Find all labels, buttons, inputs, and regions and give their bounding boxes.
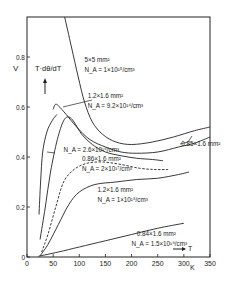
data-curve — [65, 17, 210, 145]
x-tick-label: 350 — [204, 260, 216, 267]
chart: 05010015020025030035000.20.40.60.8 5×5 m… — [0, 0, 229, 286]
up-arrow-icon — [43, 78, 47, 94]
plot-frame — [27, 17, 210, 257]
x-tick-label: 0 — [25, 260, 29, 267]
x-tick-label: 250 — [152, 260, 164, 267]
curve-label: N_A = 9.2×10¹⁴/cm³ — [88, 102, 144, 110]
x-axis-unit: K — [190, 264, 195, 271]
curve-label: N_A = 1×10¹⁸/cm³ — [98, 196, 148, 204]
x-tick-label: 300 — [178, 260, 190, 267]
curve-label: 1.2×1.6 mm² — [98, 186, 134, 193]
plot-border — [27, 17, 210, 257]
annotations: 5×5 mm²N_A = 1×10¹⁵/cm³1.2×1.6 mm²N_A = … — [64, 56, 221, 248]
curve-label: N_A = 1.5×10¹⁹/cm³ — [132, 240, 188, 248]
curve-label: N_A = 2.6×10¹⁶/cm³ — [64, 146, 119, 154]
curve-label: 0.86×1.6 mm² — [82, 155, 121, 162]
x-tick-label: 150 — [100, 260, 112, 267]
y-tick-label: 0 — [21, 254, 25, 261]
curve-label: N_A = 1×10¹⁵/cm³ — [85, 66, 135, 74]
curve-label: 5×5 mm² — [85, 56, 110, 63]
data-curves — [39, 17, 210, 256]
y-axis-expression: T·dθ/dT — [35, 64, 62, 73]
curve-label: N_A = 2×10¹⁷/cm³ — [82, 165, 132, 173]
data-curve — [40, 117, 163, 240]
curve-label: 0.84×1.6 mm² — [137, 230, 176, 237]
right-arrow-icon — [173, 247, 186, 251]
y-tick-label: 0.8 — [16, 54, 25, 61]
y-tick-label: 0.4 — [16, 154, 25, 161]
y-axis-unit: V — [13, 64, 19, 73]
x-tick-label: 100 — [73, 260, 85, 267]
y-tick-label: 0.6 — [16, 104, 25, 111]
x-axis-variable: T — [188, 245, 193, 252]
x-tick-label: 200 — [126, 260, 138, 267]
curve-label: 1.2×1.6 mm² — [88, 92, 124, 99]
data-curve — [39, 115, 57, 215]
curve-label: 0.85×1.6 mm² — [181, 140, 220, 147]
data-curve — [42, 162, 169, 252]
y-tick-label: 0.2 — [16, 204, 25, 211]
x-tick-label: 50 — [49, 260, 57, 267]
